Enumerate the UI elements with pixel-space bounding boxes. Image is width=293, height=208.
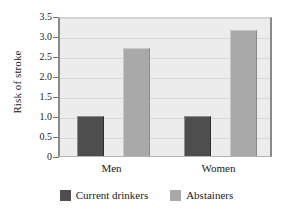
legend-item: Abstainers: [170, 189, 233, 201]
y-axis-tick-labels: 00.51.01.52.02.53.03.5: [28, 10, 52, 170]
y-axis-tick-label: 3.0: [28, 31, 52, 43]
y-axis-tick-label: 2.0: [28, 71, 52, 83]
bar: [184, 116, 211, 156]
legend-label: Abstainers: [186, 189, 233, 201]
legend-swatch-icon: [60, 190, 71, 201]
y-axis-title: Risk of stroke: [10, 22, 24, 142]
y-axis-tick-label: 1.0: [28, 111, 52, 123]
y-axis-tick-label: 1.5: [28, 91, 52, 103]
bars-layer: [60, 18, 270, 156]
y-axis-tick-label: 3.5: [28, 11, 52, 23]
legend-item: Current drinkers: [60, 189, 148, 201]
bar: [230, 30, 257, 156]
y-axis-tick-label: 2.5: [28, 51, 52, 63]
y-axis-tick-mark: [53, 157, 59, 158]
x-axis-category-label: Men: [72, 161, 152, 175]
y-axis-tick-label: 0: [28, 151, 52, 163]
plot-area: [58, 17, 272, 157]
bar: [77, 116, 104, 156]
y-axis-tick-label: 0.5: [28, 131, 52, 143]
x-axis-category-label: Women: [179, 161, 259, 175]
bar-chart-figure: Risk of stroke 00.51.01.52.02.53.03.5 Me…: [0, 0, 293, 208]
legend-swatch-icon: [170, 190, 181, 201]
x-axis-category-labels: MenWomen: [58, 161, 272, 177]
legend-label: Current drinkers: [76, 189, 148, 201]
chart-legend: Current drinkersAbstainers: [0, 186, 293, 204]
bar: [123, 48, 150, 156]
